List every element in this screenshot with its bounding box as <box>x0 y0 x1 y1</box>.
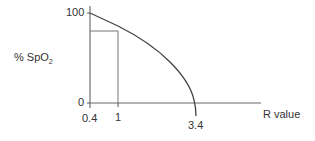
y-tick-label-100: 100 <box>66 6 84 18</box>
spo2-curve <box>90 13 196 116</box>
x-tick-label-3-4: 3.4 <box>188 119 203 131</box>
y-axis-label: % SpO2 <box>14 51 53 65</box>
x-tick-label-1: 1 <box>115 111 121 123</box>
y-tick-label-0: 0 <box>78 96 84 108</box>
x-tick-label-0-4: 0.4 <box>82 112 97 124</box>
x-axis-label: R value <box>263 108 300 120</box>
